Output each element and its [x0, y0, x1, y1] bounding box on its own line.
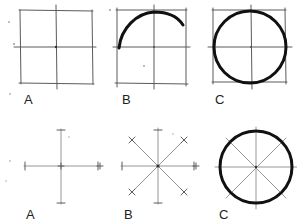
top-step-a-figure [8, 5, 96, 95]
top-step-c-label: C [215, 92, 224, 107]
bottom-step-c-figure [193, 127, 297, 209]
bottom-step-a-figure [5, 129, 98, 204]
top-step-c-figure [208, 5, 292, 89]
top-step-a-label: A [24, 92, 33, 107]
top-step-b-figure [109, 5, 190, 89]
circle-construction-diagram: A B C A [0, 0, 297, 224]
bottom-step-a-label: A [26, 207, 35, 222]
bottom-step-b-figure [97, 128, 195, 204]
bottom-step-b-label: B [124, 207, 133, 222]
bottom-step-c-label: C [219, 207, 228, 222]
top-step-b-label: B [122, 92, 131, 107]
